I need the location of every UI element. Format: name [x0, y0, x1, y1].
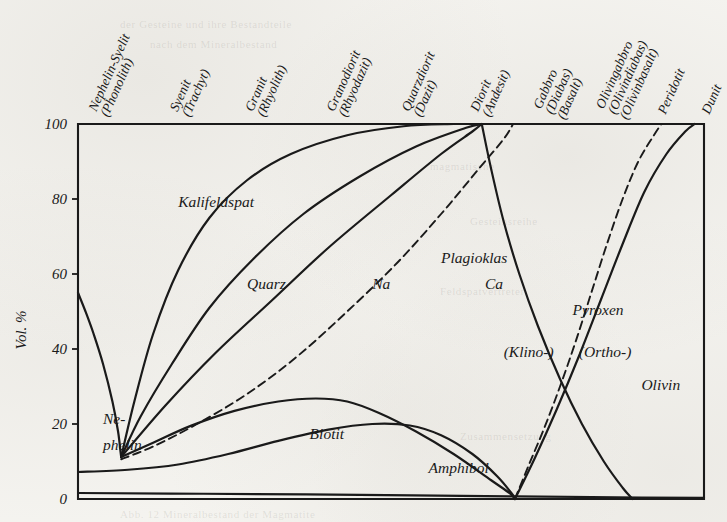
x-axis-label-granit: Granit(Rhyolith)	[242, 57, 290, 119]
x-axis-label-nephelin-syenit: Nephelin-Syelit(Phonolith)	[85, 30, 145, 119]
x-axis-label-granodiorit: Granodiorit(Rhyodazit)	[323, 47, 376, 119]
curve-lower-accessory-band	[78, 493, 704, 498]
field-label-nephelin-2: phelin	[102, 436, 142, 453]
field-label-quarz: Quarz	[247, 275, 286, 292]
field-label-na: Na	[371, 275, 390, 292]
curve-nephelin-upper-boundary	[78, 293, 121, 457]
y-axis-title: Vol. %	[13, 310, 29, 349]
field-label-amphibol: Amphibol	[428, 459, 489, 476]
x-axis-label-olivingabbro: Olivingabbro(Olivindiabas)(Olivinbasalt)	[593, 32, 663, 121]
x-axis-label-quarzdiorit: Quarzdiorit(Dazit)	[398, 48, 450, 119]
field-label-plagioklas: Plagioklas	[440, 249, 507, 266]
figure-page: der Gesteine und ihre Bestandteile nach …	[0, 0, 727, 522]
y-axis-tick-label: 0	[60, 491, 68, 507]
field-label-nephelin-1: Ne-	[102, 410, 125, 427]
field-label-ca: Ca	[485, 275, 503, 292]
field-label-ortho: (Ortho-)	[579, 343, 632, 361]
field-label-pyroxen: Pyroxen	[572, 301, 624, 318]
x-axis-label-dunit: Dunit	[698, 81, 725, 117]
field-label-klino: (Klino-)	[504, 343, 554, 361]
mineral-composition-chart: 020406080100 Nephelin-Syelit(Phonolith)S…	[0, 0, 727, 522]
y-axis-tick-label: 80	[52, 191, 68, 207]
curve-quarz-plagioklas-na-boundary	[121, 124, 482, 457]
y-axis-tick-label: 100	[45, 116, 68, 132]
curve-plagioklas-upper-boundary-mafic-top	[121, 124, 482, 457]
x-axis-label-gabbro: Gabbro(Diabas)(Basalt)	[530, 60, 587, 121]
curve-na-ca-plagioclase-divide	[121, 124, 513, 459]
y-axis-tick-label: 60	[52, 266, 68, 282]
field-label-layer: KalifeldspatQuarzNaPlagioklasCaPyroxen(K…	[102, 193, 680, 476]
x-axis-label-syenit: Syenit(Trachyt)	[167, 61, 213, 119]
y-axis-tick-label: 40	[52, 341, 68, 357]
curve-kalifeldspat-quarz-boundary	[121, 124, 453, 457]
x-axis-label-peridotit: Peridotit	[654, 65, 688, 117]
x-axis-label-diorit: Diorit(Andesit)	[467, 62, 513, 120]
field-label-olivin: Olivin	[641, 376, 680, 393]
x-axis-label-layer: Nephelin-Syelit(Phonolith)Syenit(Trachyt…	[85, 30, 725, 121]
curve-biotit-upper-boundary	[121, 399, 515, 500]
field-label-kalifeldspat: Kalifeldspat	[177, 193, 254, 210]
x-axis-label-line: Peridotit	[654, 65, 688, 117]
y-axis-tick-label: 20	[52, 416, 68, 432]
x-axis-label-line: Dunit	[698, 81, 725, 117]
y-axis-label-layer: Vol. %	[13, 310, 29, 349]
field-label-biotit: Biotit	[310, 425, 345, 442]
